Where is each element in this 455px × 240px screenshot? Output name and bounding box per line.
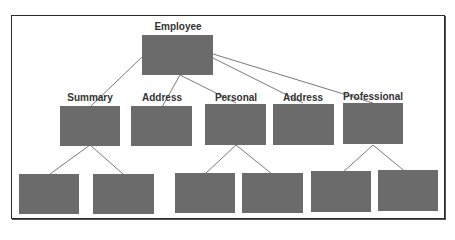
level2-label-personal: Personal bbox=[215, 92, 257, 103]
level3-node-personal-1 bbox=[175, 173, 235, 213]
level2-label-professional: Professional bbox=[343, 91, 403, 102]
level2-node-summary bbox=[60, 106, 120, 146]
level3-node-personal-2 bbox=[242, 173, 303, 213]
level2-node-address-2 bbox=[273, 104, 334, 145]
level2-label-summary: Summary bbox=[67, 92, 113, 103]
root-node-employee bbox=[142, 35, 213, 75]
level2-node-address bbox=[131, 106, 192, 146]
level2-label-address: Address bbox=[142, 92, 182, 103]
root-label: Employee bbox=[154, 21, 201, 32]
level2-node-personal bbox=[205, 104, 266, 145]
level2-node-professional bbox=[343, 103, 403, 144]
level3-node-professional-2 bbox=[378, 170, 438, 211]
level3-node-summary-2 bbox=[93, 174, 154, 214]
level2-label-address-2: Address bbox=[283, 92, 323, 103]
level3-node-summary-1 bbox=[19, 174, 79, 214]
level3-node-professional-1 bbox=[311, 171, 371, 212]
